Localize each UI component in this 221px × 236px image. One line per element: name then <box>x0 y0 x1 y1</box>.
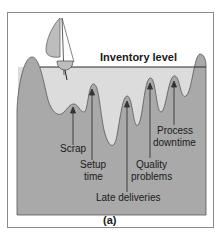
label-downtime: downtime <box>153 137 196 148</box>
label-quality: Quality <box>136 159 167 170</box>
label-setup: Setup <box>80 159 107 170</box>
label-late-deliveries: Late deliveries <box>96 192 160 203</box>
figure-caption: (a) <box>103 214 117 226</box>
label-process: Process <box>157 125 193 136</box>
label-time: time <box>84 171 103 182</box>
inventory-rocks-diagram: Inventory level Scrap Setup time Late de… <box>0 0 221 236</box>
label-scrap: Scrap <box>60 143 87 154</box>
diagram-title: Inventory level <box>100 51 177 63</box>
label-problems: problems <box>131 171 172 182</box>
